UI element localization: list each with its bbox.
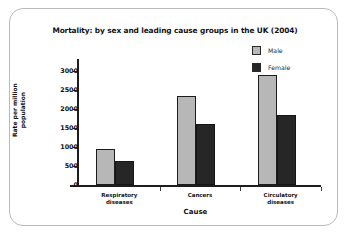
y-axis-tick-label: 3000 — [48, 67, 78, 75]
bar-male — [96, 149, 115, 185]
y-axis-title: Rate per million population — [11, 69, 27, 151]
chart-page: Mortality: by sex and leading cause grou… — [0, 0, 349, 236]
x-axis-category-label: Circulatorydiseases — [241, 192, 321, 207]
x-axis-line — [70, 185, 321, 187]
y-axis-tick-label-wrap: 500 — [40, 166, 78, 167]
y-axis-tick-label: 1000 — [48, 143, 78, 151]
y-axis-tick-label-wrap: 0 — [40, 185, 78, 186]
bar-male — [258, 75, 277, 185]
y-axis-tick-label: 500 — [48, 162, 78, 170]
bar-female — [115, 161, 134, 185]
bar-female — [277, 115, 296, 185]
x-axis-title: Cause — [70, 208, 321, 216]
y-axis-tick-label: 2500 — [48, 86, 78, 94]
y-axis-tick-label: 0 — [48, 181, 78, 189]
y-axis-tick-label-wrap: 2500 — [40, 90, 78, 91]
x-axis-category-label: Respiratorydiseases — [79, 192, 159, 207]
x-axis-tick — [240, 187, 241, 191]
y-axis-tick-label: 1500 — [48, 124, 78, 132]
y-axis-tick-label: 2000 — [48, 105, 78, 113]
plot-area: 050010001500200025003000 Respiratorydise… — [0, 0, 349, 236]
y-axis-title-text: Rate per million population — [11, 83, 26, 137]
y-axis-tick-label-wrap: 2000 — [40, 109, 78, 110]
bar-female — [196, 124, 215, 185]
x-axis-category-label: Cancers — [160, 192, 240, 199]
y-axis-tick-label-wrap: 1500 — [40, 128, 78, 129]
y-axis-tick-label-wrap: 3000 — [40, 71, 78, 72]
x-axis-tick — [321, 187, 322, 191]
x-axis-tick — [160, 187, 161, 191]
bar-male — [177, 96, 196, 185]
y-axis-tick-label-wrap: 1000 — [40, 147, 78, 148]
